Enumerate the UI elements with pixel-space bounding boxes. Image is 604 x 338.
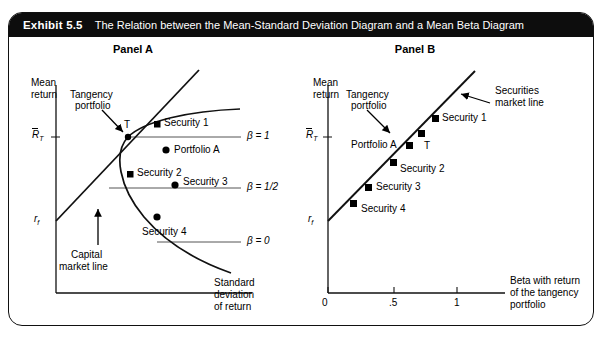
panel-a-tangency-point-label: T [124,119,130,131]
panel-a-x-axis-label-line1: Standard [214,277,255,289]
panel-b-x-axis-label-line2: of the tangency [510,287,578,299]
panel-a-marker-security-2 [127,171,134,178]
panel-b-x-axis-label-line1: Beta with return [510,275,580,287]
panel-b-marker-label-security-3: Security 3 [376,181,420,193]
panel-b-tangency-arrow [367,110,390,133]
panel-a-x-axis-label-line3: of return [214,301,251,313]
panel-a-y-axis-label-line2: return [31,89,57,101]
panel-b-marker-tangency [418,130,425,137]
panel-a-beta-label-1: β = 1 [247,130,270,142]
panel-a: Panel A [9,37,305,325]
exhibit-title: The Relation between the Mean-Standard D… [95,19,524,31]
panel-b-annotation-tangency-line1: Tangency [346,89,389,101]
panel-b-tangency-point-label: T [424,140,430,152]
panel-b-annotation-sml-line1: Securities [495,85,539,97]
panel-b-xtick-label-half: .5 [389,297,397,309]
panel-b-xtick-label-0: 0 [322,297,328,309]
panel-b-y-axis-label-line1: Mean [313,77,338,89]
panel-a-marker-security-3 [171,181,178,188]
panel-a-x-axis-label-line2: deviation [214,289,254,301]
panel-a-tangency-arrow [102,110,123,132]
panel-a-marker-security-1 [154,121,161,128]
panel-b: Panel B [305,37,593,325]
panel-a-marker-label-security-3: Security 3 [183,176,227,188]
panel-a-beta-label-0: β = 0 [247,235,270,247]
panel-b-y-axis-label-line2: return [313,89,339,101]
panel-a-annotation-tangency-line2: portfolio [75,100,111,112]
panel-b-marker-security-1 [432,115,439,122]
panel-a-marker-label-security-2: Security 2 [137,167,181,179]
panel-b-marker-label-security-4: Security 4 [361,203,405,215]
panel-b-ytick-label-expected-return: RT [306,129,318,145]
panel-a-annotation-cml-line2: market line [59,261,108,273]
panel-b-x-axis-label-line3: portfolio [510,299,546,311]
panel-a-marker-label-security-4: Security 4 [142,226,186,238]
panel-a-marker-portfolio-a [162,146,169,153]
panel-a-annotation-tangency-line1: Tangency [70,89,113,101]
panel-a-marker-label-security-1: Security 1 [164,117,208,129]
panel-b-marker-label-security-2: Security 2 [400,163,444,175]
panel-a-beta-label-half: β = 1/2 [247,181,278,193]
panel-b-marker-security-3 [365,184,372,191]
panel-b-marker-portfolio-a [406,142,413,149]
panel-a-ytick-label-riskfree: rf [34,213,39,229]
panel-b-annotation-sml-line2: market line [495,97,544,109]
exhibit-header: Exhibit 5.5 The Relation between the Mea… [9,13,593,37]
panel-b-annotation-tangency-line2: portfolio [351,100,387,112]
panel-b-xtick-label-1: 1 [454,297,460,309]
panel-b-marker-label-security-1: Security 1 [442,112,486,124]
panel-b-ytick-label-riskfree: rf [308,213,313,229]
panel-a-marker-label-portfolio-a: Portfolio A [174,144,220,156]
panel-b-marker-security-4 [350,200,357,207]
panel-a-y-axis-label-line1: Mean [31,77,56,89]
panel-a-annotation-cml-line1: Capital [71,249,102,261]
panel-b-sml-arrow [461,94,490,103]
panel-a-marker-security-4 [153,213,160,220]
panel-a-ytick-label-expected-return: RT [32,129,44,145]
panel-b-marker-label-portfolio-a: Portfolio A [351,139,397,151]
exhibit-number: Exhibit 5.5 [23,19,83,31]
panel-a-point-tangency [125,134,131,140]
panel-b-marker-security-2 [390,159,397,166]
exhibit-frame: Exhibit 5.5 The Relation between the Mea… [8,12,594,326]
